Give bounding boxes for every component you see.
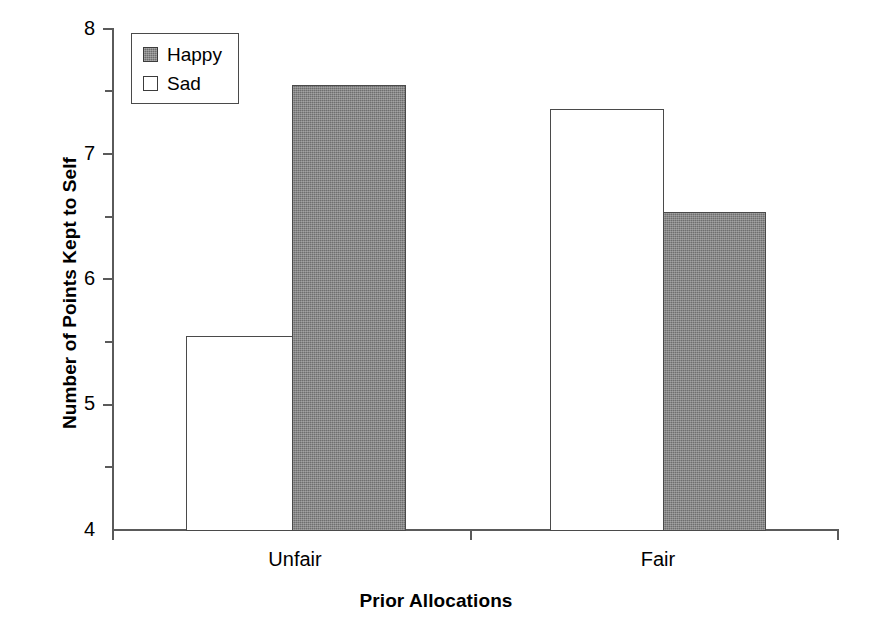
x-tick-end	[837, 529, 839, 540]
y-tick-major-5	[103, 404, 113, 406]
x-axis-title: Prior Allocations	[0, 590, 872, 612]
legend-item-sad: Sad	[143, 69, 238, 98]
y-tick-label-6: 6	[55, 268, 95, 288]
y-tick-label-8: 8	[55, 18, 95, 38]
y-tick-major-6	[103, 278, 113, 280]
legend-swatch-sad-icon	[143, 76, 158, 91]
x-tick-label-fair: Fair	[558, 548, 758, 571]
x-tick-label-unfair: Unfair	[195, 548, 395, 571]
y-tick-minor-4-5	[105, 466, 113, 468]
bar-unfair-sad	[186, 336, 293, 531]
y-tick-minor-7-5	[105, 90, 113, 92]
legend-item-happy: Happy	[143, 40, 238, 69]
legend-label-sad: Sad	[167, 74, 201, 93]
bar-chart-figure: Number of Points Kept to Self 8 7 6 5 4 …	[0, 0, 872, 639]
y-tick-major-7	[103, 153, 113, 155]
y-tick-minor-6-5	[105, 216, 113, 218]
y-tick-major-8	[103, 28, 113, 30]
y-tick-label-4: 4	[55, 519, 95, 539]
bar-fair-happy	[663, 212, 766, 531]
x-tick-origin	[112, 519, 114, 540]
y-tick-label-5: 5	[55, 393, 95, 413]
legend-swatch-happy-icon	[143, 47, 158, 62]
bar-unfair-happy	[292, 85, 406, 531]
y-tick-minor-5-5	[105, 341, 113, 343]
bar-fair-sad	[550, 109, 664, 531]
x-tick-mid	[470, 529, 472, 540]
y-tick-label-7: 7	[55, 143, 95, 163]
legend: Happy Sad	[131, 33, 239, 104]
legend-label-happy: Happy	[167, 45, 222, 64]
